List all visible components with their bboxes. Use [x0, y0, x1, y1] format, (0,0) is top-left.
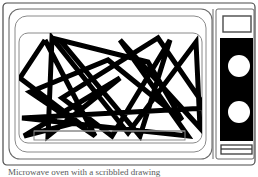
timer-knob[interactable]	[228, 55, 250, 77]
control-strip	[220, 38, 253, 141]
power-knob[interactable]	[228, 101, 250, 123]
figure-caption-text: Microwave oven with a scribbled drawing	[8, 169, 160, 177]
appliance-line-drawing	[0, 0, 258, 177]
control-panel	[216, 9, 254, 159]
figure-caption: Microwave oven with a scribbled drawing	[0, 169, 258, 177]
display-window	[223, 16, 251, 32]
microwave-oven-figure: Microwave oven with a scribbled drawing	[0, 0, 258, 177]
